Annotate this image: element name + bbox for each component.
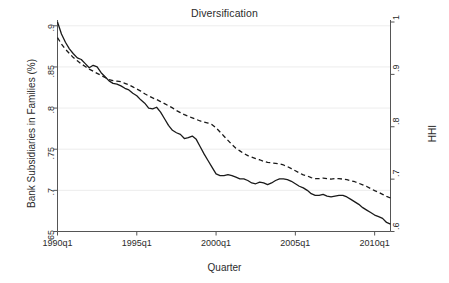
y-axis-right-tick: .7 — [391, 137, 401, 177]
x-axis-tick: 1990q1 — [28, 238, 88, 248]
x-axis-tick: 2010q1 — [345, 238, 405, 248]
y-axis-left-tick: .75 — [46, 147, 56, 187]
x-axis-title: Quarter — [0, 262, 449, 273]
y-axis-left-tick: .8 — [46, 106, 56, 146]
y-axis-right-tick: 1 — [391, 0, 401, 20]
x-axis-tick: 2000q1 — [186, 238, 246, 248]
chart-figure: Diversification Bank Subsidiaries in Fam… — [0, 0, 449, 283]
series-line-2 — [58, 38, 391, 198]
x-axis-tick: 1995q1 — [107, 238, 167, 248]
y-axis-left-title: Bank Subsidiaries in Families (%) — [26, 24, 37, 244]
y-axis-right-title: HHI — [427, 69, 438, 199]
y-axis-left-tick: .9 — [46, 24, 56, 64]
y-axis-left-tick: .85 — [46, 65, 56, 105]
series-line-1 — [58, 22, 391, 224]
y-axis-left-tick: .65 — [46, 230, 56, 270]
y-axis-right-tick: .6 — [391, 190, 401, 230]
y-axis-left-tick: .7 — [46, 188, 56, 228]
y-axis-right-tick: .9 — [391, 32, 401, 72]
y-axis-right-tick: .8 — [391, 85, 401, 125]
x-axis-tick: 2005q1 — [265, 238, 325, 248]
